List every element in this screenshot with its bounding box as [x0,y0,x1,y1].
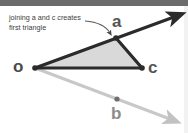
annotation-text-block: joining a and c creates first triangle [9,13,93,33]
point-label-a: a [112,13,121,30]
point-o-dot [32,65,38,71]
point-a-dot [113,35,119,41]
annotation-line-2: first triangle [9,23,93,33]
point-b-dot [114,96,119,101]
point-label-o: o [13,58,23,75]
point-label-b: b [111,105,121,122]
diagram-figure: joining a and c creates first triangle a… [0,0,188,133]
annotation-line-1: joining a and c creates [9,13,93,23]
point-label-c: c [148,59,157,76]
point-c-dot [139,65,145,71]
